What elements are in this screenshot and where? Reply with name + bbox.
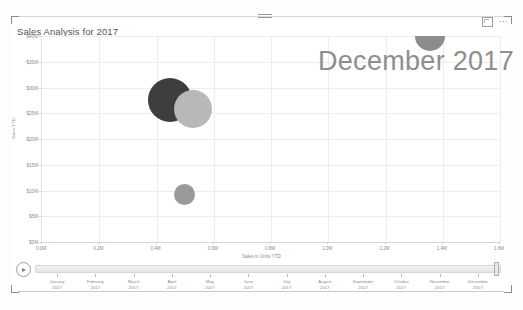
timeline-month-label[interactable]: March2017 [128,279,140,290]
timeline-tick [363,274,364,277]
timeline-tick [478,274,479,277]
powerbi-visual-container: Sales Analysis for 2017 December 2017 Sa… [0,0,523,310]
timeline-month-name: March [128,279,140,285]
timeline-tick [57,274,58,277]
y-axis-tick-label: $0M [29,240,38,245]
timeline-tick [248,274,249,277]
timeline-month-year: 2017 [430,285,450,291]
timeline-month-name: May [205,279,215,285]
timeline-month-name: April [167,279,177,285]
timeline-tick [287,274,288,277]
x-axis-tick-label: 0.6M [208,246,218,251]
data-bubble[interactable] [174,90,212,128]
timeline-month-label[interactable]: June2017 [244,279,254,290]
timeline-tick [172,274,173,277]
focus-mode-icon[interactable] [482,16,493,27]
timeline-month-name: July [282,279,292,285]
x-tick-mark [385,242,386,244]
timeline-month-label[interactable]: August2017 [318,279,331,290]
timeline-month-year: 2017 [318,285,331,291]
play-button[interactable] [16,262,31,277]
timeline-month-name: November [430,279,450,285]
timeline-month-label[interactable]: July2017 [282,279,292,290]
timeline-month-year: 2017 [205,285,215,291]
timeline-month-year: 2017 [87,285,104,291]
x-tick-mark [442,242,443,244]
timeline-month-year: 2017 [49,285,64,291]
timeline-month-name: January [49,279,64,285]
timeline-month-year: 2017 [394,285,409,291]
timeline-month-year: 2017 [244,285,254,291]
timeline-slider-thumb[interactable] [494,262,499,276]
timeline-month-year: 2017 [282,285,292,291]
timeline-month-label[interactable]: October2017 [394,279,409,290]
timeline-month-name: August [318,279,331,285]
x-tick-mark [98,242,99,244]
timeline-month-label[interactable]: April2017 [167,279,177,290]
timeline-month-label[interactable]: May2017 [205,279,215,290]
x-tick-mark [41,242,42,244]
x-axis-tick-label: 0.0M [36,246,46,251]
visual-header-icons [482,16,509,27]
timeline-month-name: December [468,279,488,285]
frame-corner-bottom-right [504,285,512,293]
y-axis-tick-label: $15M [27,162,39,167]
x-axis-tick-label: 1.2M [379,246,389,251]
timeline-slider-track[interactable] [35,265,501,273]
x-axis-tick-label: 0.4M [150,246,160,251]
timeline-tick [210,274,211,277]
x-axis-tick-label: 1.0M [322,246,332,251]
frame-edge-bottom [18,291,504,292]
timeline-month-year: 2017 [468,285,488,291]
y-axis-tick-label: $20M [27,137,39,142]
timeline-tick [95,274,96,277]
timeline-month-label[interactable]: September2017 [353,279,374,290]
x-axis-tick-label: 0.8M [265,246,275,251]
timeline-month-name: October [394,279,409,285]
x-axis-tick-label: 1.4M [437,246,447,251]
y-axis-tick-label: $5M [29,214,38,219]
y-axis-tick-label: $10M [27,188,39,193]
play-icon [22,268,26,272]
data-bubble[interactable] [415,36,445,51]
y-axis-tick-label: $25M [27,111,39,116]
timeline-month-year: 2017 [128,285,140,291]
y-axis-tick-label: $30M [27,85,39,90]
x-tick-mark [499,242,500,244]
timeline-month-year: 2017 [353,285,374,291]
bubble-layer [41,36,499,242]
drag-handle-icon[interactable] [258,14,272,21]
x-tick-mark [270,242,271,244]
x-axis-tick-label: 1.6M [494,246,504,251]
x-axis-tick-label: 0.2M [93,246,103,251]
timeline-tick [134,274,135,277]
timeline-month-year: 2017 [167,285,177,291]
x-axis-title: Sales in Units YTD [0,254,523,259]
timeline-month-label[interactable]: December2017 [468,279,488,290]
data-bubble[interactable] [174,184,195,205]
timeline-month-name: June [244,279,254,285]
x-tick-mark [156,242,157,244]
timeline-tick [401,274,402,277]
timeline-month-name: February [87,279,104,285]
timeline-tick [325,274,326,277]
frame-corner-top-left [11,16,19,24]
x-tick-mark [327,242,328,244]
more-options-icon[interactable] [498,16,509,27]
x-tick-mark [213,242,214,244]
y-axis-tick-label: $40M [27,34,39,39]
y-axis-title: Sales YTD [11,118,16,139]
timeline-tick [440,274,441,277]
timeline-month-name: September [353,279,374,285]
timeline-month-label[interactable]: February2017 [87,279,104,290]
y-axis-tick-label: $35M [27,59,39,64]
frame-corner-bottom-left [11,285,19,293]
timeline-month-label[interactable]: January2017 [49,279,64,290]
timeline-month-label[interactable]: November2017 [430,279,450,290]
